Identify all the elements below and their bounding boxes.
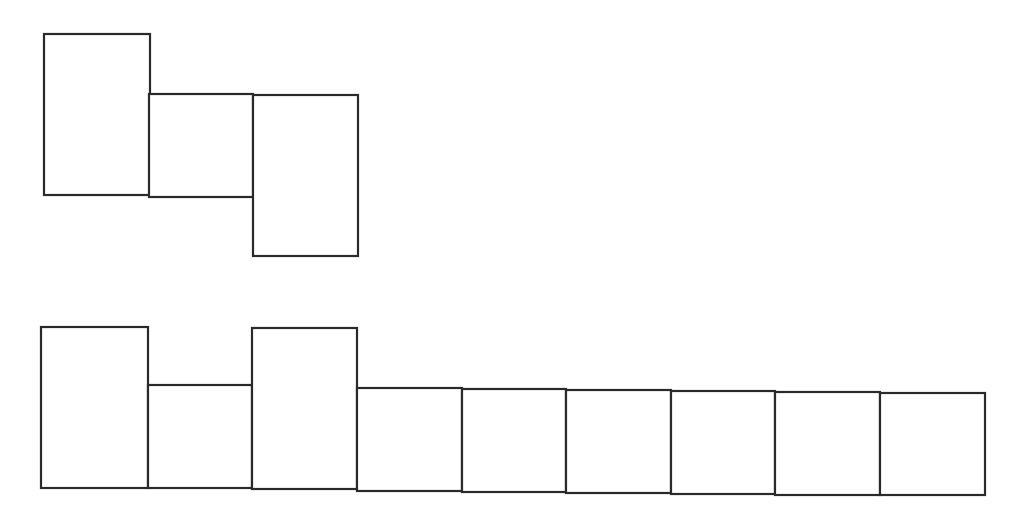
bottom-group-box-2 bbox=[148, 385, 252, 488]
top-rectangle-group bbox=[44, 34, 358, 256]
bottom-group-box-4 bbox=[357, 388, 462, 491]
top-group-box-3 bbox=[253, 95, 358, 256]
bottom-group-box-5 bbox=[462, 389, 566, 492]
top-group-box-1 bbox=[44, 34, 150, 195]
bottom-group-box-8 bbox=[775, 392, 880, 495]
top-group-box-2 bbox=[149, 94, 253, 197]
bottom-group-box-6 bbox=[566, 390, 671, 493]
diagram-canvas bbox=[0, 0, 1027, 517]
bottom-group-box-3 bbox=[252, 328, 357, 489]
bottom-rectangle-group bbox=[41, 327, 985, 495]
bottom-group-box-7 bbox=[671, 391, 775, 494]
bottom-group-box-1 bbox=[41, 327, 148, 488]
bottom-group-box-9 bbox=[880, 393, 985, 495]
